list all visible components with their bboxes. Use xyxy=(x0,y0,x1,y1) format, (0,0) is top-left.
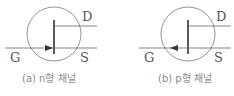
drain-label: D xyxy=(216,9,226,24)
gate-label: G xyxy=(144,50,154,65)
gate-label: G xyxy=(10,50,20,65)
arrow-in-icon xyxy=(45,45,53,51)
p-channel-jfet-symbol: D G S xyxy=(139,7,231,65)
source-label: S xyxy=(80,50,89,65)
n-channel-jfet-symbol: D G S xyxy=(5,7,97,65)
caption-a: (a) n형 채널 xyxy=(22,70,76,85)
drain-label: D xyxy=(82,9,92,24)
arrow-out-icon xyxy=(170,45,178,51)
caption-b: (b) p형 채널 xyxy=(158,70,212,85)
source-label: S xyxy=(214,50,223,65)
